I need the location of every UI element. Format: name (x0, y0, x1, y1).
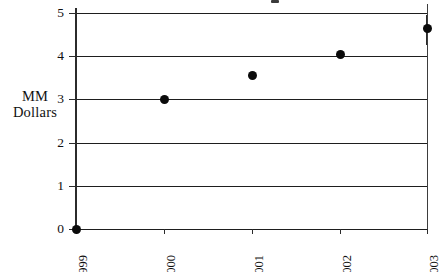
y-tick-label-2: 2 (57, 135, 64, 151)
data-point-1999 (72, 225, 81, 234)
x-tick-label-2003: 2003 (427, 214, 441, 260)
y-tick-label-0: 0 (57, 221, 64, 237)
x-tick-label-2001: 2001 (252, 214, 266, 260)
gridline-3 (76, 99, 428, 100)
data-point-2002 (336, 50, 345, 59)
data-point-2003 (423, 24, 432, 33)
y-tick-3: 3 (69, 99, 77, 100)
data-point-2000 (160, 95, 169, 104)
cropped-title-remnant (271, 0, 279, 3)
y-tick-label-5: 5 (57, 5, 64, 21)
gridline-4 (76, 56, 428, 57)
x-tick-label-2000: 2000 (164, 214, 178, 260)
gridline-2 (76, 143, 428, 144)
y-tick-label-3: 3 (57, 91, 64, 107)
data-point-2001 (248, 71, 257, 80)
x-tick-label-1999: 1999 (76, 214, 90, 260)
y-tick-5: 5 (69, 13, 77, 14)
gridline-1 (76, 186, 428, 187)
y-tick-1: 1 (69, 186, 77, 187)
chart-screenshot: MM Dollars 5 4 3 2 1 0 (0, 0, 444, 272)
y-tick-2: 2 (69, 143, 77, 144)
y-tick-label-1: 1 (57, 178, 64, 194)
y-tick-label-4: 4 (57, 48, 64, 64)
gridline-5 (76, 13, 428, 14)
y-axis-line (75, 8, 77, 230)
y-tick-4: 4 (69, 56, 77, 57)
x-tick-label-2002: 2002 (340, 214, 354, 260)
plot-area: 5 4 3 2 1 0 1999 2000 2001 2002 2003 (76, 13, 428, 229)
